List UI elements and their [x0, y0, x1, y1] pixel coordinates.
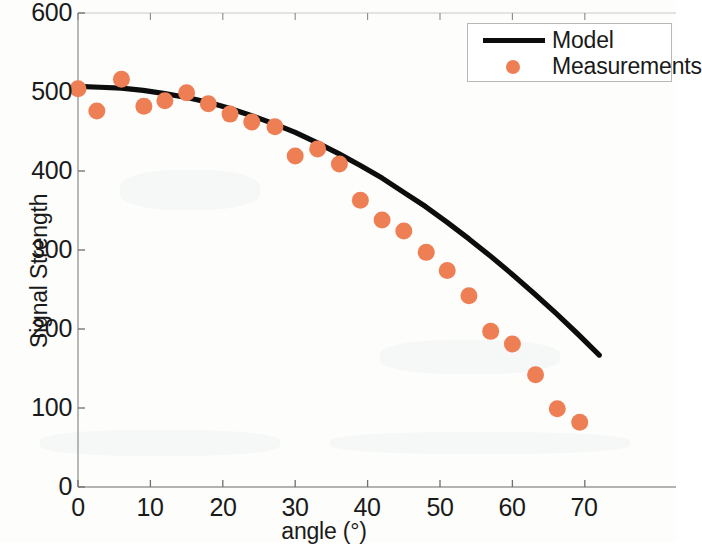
y-tick-label: 600 — [0, 0, 72, 25]
data-point — [352, 192, 369, 209]
x-tick-label: 0 — [43, 495, 113, 520]
data-point — [287, 147, 304, 164]
legend-label: Measurements — [552, 53, 702, 79]
data-point — [178, 84, 195, 101]
data-point — [113, 71, 130, 88]
data-point — [200, 95, 217, 112]
data-point — [243, 114, 260, 131]
x-tick-label: 20 — [188, 495, 258, 520]
model-line — [78, 86, 599, 355]
x-tick-label: 50 — [405, 495, 475, 520]
series-layer — [70, 71, 600, 431]
data-point — [395, 223, 412, 240]
x-tick-label: 70 — [549, 495, 619, 520]
legend-entry-model: Model — [468, 27, 673, 53]
legend: Model Measurements — [467, 23, 672, 82]
y-tick-label: 100 — [0, 395, 72, 420]
data-point — [418, 244, 435, 261]
legend-entry-measurements: Measurements — [468, 53, 673, 79]
data-point — [88, 102, 105, 119]
data-point — [549, 400, 566, 417]
legend-line-swatch — [478, 27, 548, 53]
data-point — [527, 366, 544, 383]
data-point — [135, 98, 152, 115]
data-point — [70, 80, 87, 97]
data-point — [439, 262, 456, 279]
legend-label: Model — [552, 27, 614, 53]
measurement-points — [70, 71, 589, 431]
x-tick-label: 10 — [115, 495, 185, 520]
data-point — [156, 92, 173, 109]
x-axis-title: angle (°) — [0, 518, 662, 545]
data-point — [309, 140, 326, 157]
axis-lines — [78, 13, 676, 487]
data-point — [374, 211, 391, 228]
y-tick-label: 400 — [0, 158, 72, 183]
data-point — [460, 287, 477, 304]
data-point — [482, 323, 499, 340]
legend-dot-swatch — [478, 53, 548, 79]
y-axis-title: Signal Strength — [26, 194, 53, 348]
data-point — [331, 155, 348, 172]
tick-marks — [78, 13, 585, 487]
data-point — [504, 336, 521, 353]
x-tick-label: 30 — [260, 495, 330, 520]
data-point — [266, 118, 283, 135]
y-tick-label: 500 — [0, 79, 72, 104]
x-tick-label: 60 — [477, 495, 547, 520]
data-point — [571, 414, 588, 431]
data-point — [222, 106, 239, 123]
x-tick-label: 40 — [332, 495, 402, 520]
